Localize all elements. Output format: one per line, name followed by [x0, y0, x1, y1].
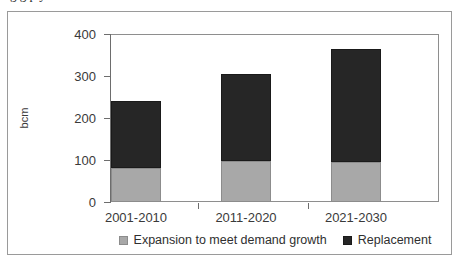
y-tick-400: [104, 34, 111, 35]
legend-label-expansion: Expansion to meet demand growth: [134, 233, 327, 247]
y-tick-200: [104, 118, 111, 119]
black-swatch-icon: [343, 236, 352, 245]
x-label-2001-2010: 2001-2010: [76, 210, 196, 225]
chart-legend: Expansion to meet demand growth Replacem…: [111, 233, 439, 247]
legend-item-expansion[interactable]: Expansion to meet demand growth: [119, 233, 327, 247]
gray-swatch-icon: [119, 236, 128, 245]
y-tick-label-100: 100: [56, 154, 96, 167]
bar-segment-replacement[interactable]: [221, 74, 271, 161]
bar-segment-expansion[interactable]: [221, 161, 271, 202]
legend-label-replacement: Replacement: [358, 233, 432, 247]
x-tick-2: [308, 203, 309, 209]
y-tick-label-200: 200: [56, 112, 96, 125]
bar-segment-expansion[interactable]: [331, 162, 381, 202]
x-label-2011-2020: 2011-2020: [186, 210, 306, 225]
bar-2021-2030[interactable]: [331, 49, 381, 202]
x-tick-1: [198, 203, 199, 209]
x-label-2021-2030: 2021-2030: [296, 210, 416, 225]
bar-segment-expansion[interactable]: [111, 168, 161, 202]
y-tick-0: [104, 202, 111, 203]
stacked-bar-chart: bcm 400 300 200 100 0 2001-2010 2011-202…: [0, 0, 459, 263]
y-tick-label-400: 400: [56, 28, 96, 41]
bar-2001-2010[interactable]: [111, 101, 161, 202]
bar-2011-2020[interactable]: [221, 74, 271, 202]
y-axis-title: bcm: [18, 88, 30, 148]
y-tick-label-0: 0: [56, 196, 96, 209]
bar-segment-replacement[interactable]: [331, 49, 381, 162]
bar-segment-replacement[interactable]: [111, 101, 161, 168]
y-tick-300: [104, 76, 111, 77]
y-tick-label-300: 300: [56, 70, 96, 83]
legend-item-replacement[interactable]: Replacement: [343, 233, 432, 247]
y-tick-100: [104, 160, 111, 161]
